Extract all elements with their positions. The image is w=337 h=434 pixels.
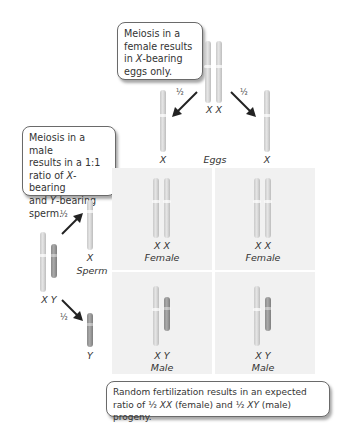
fertilization-callout: Random fertilization results in an expec… — [106, 381, 330, 417]
offspring-genotype: X Y — [243, 350, 283, 361]
offspring-x-chromosome — [153, 286, 159, 346]
egg-prob-left: ½ — [176, 88, 184, 97]
sperm-label-top: X — [82, 252, 98, 263]
female-parent-x-chromosome — [205, 41, 211, 103]
female-parent-x-chromosome — [216, 41, 222, 103]
offspring-x-chromosome — [254, 286, 260, 346]
egg-label-right: X — [259, 154, 275, 165]
callout-text: eggs only. — [124, 66, 196, 79]
offspring-x-chromosome — [164, 178, 170, 238]
callout-text: in X-bearing — [124, 53, 196, 66]
offspring-y-chromosome — [164, 297, 170, 331]
callout-text: female results — [124, 41, 196, 54]
offspring-genotype: X Y — [142, 350, 182, 361]
female-parent-genotype: X X — [200, 104, 228, 115]
offspring-sex: Male — [233, 362, 293, 373]
egg-x-chromosome — [264, 90, 270, 152]
offspring-sex: Male — [132, 362, 192, 373]
offspring-y-chromosome — [265, 297, 271, 331]
offspring-genotype: X X — [243, 240, 283, 251]
egg-prob-right: ½ — [240, 88, 248, 97]
callout-text: Meiosis in a male — [29, 132, 109, 157]
sperm-prob-bottom: ½ — [60, 313, 68, 322]
eggs-label: Eggs — [200, 154, 230, 165]
offspring-sex: Female — [132, 252, 192, 263]
offspring-sex: Female — [233, 252, 293, 263]
sperm-x-chromosome — [87, 200, 93, 250]
male-parent-x-chromosome — [40, 232, 46, 292]
male-meiosis-callout: Meiosis in a male results in a 1:1 ratio… — [22, 126, 116, 196]
offspring-x-chromosome — [153, 178, 159, 238]
offspring-genotype: X X — [142, 240, 182, 251]
callout-text: ratio of ½ XX (female) and ½ XY (male) p… — [113, 399, 323, 424]
callout-text: ratio of X-bearing — [29, 170, 109, 195]
arrow-left-icon — [170, 90, 200, 118]
sperm-label-bottom: Y — [82, 350, 98, 361]
egg-label-left: X — [155, 154, 171, 165]
offspring-x-chromosome — [254, 178, 260, 238]
callout-text: Meiosis in a — [124, 28, 196, 41]
callout-text: and Y-bearing — [29, 195, 109, 208]
female-meiosis-callout: Meiosis in a female results in X-bearing… — [117, 22, 203, 80]
egg-x-chromosome — [160, 90, 166, 152]
sperm-y-chromosome — [87, 313, 93, 347]
callout-text: Random fertilization results in an expec… — [113, 386, 323, 399]
callout-text: results in a 1:1 — [29, 157, 109, 170]
sperm-prob-top: ½ — [60, 210, 68, 219]
male-parent-y-chromosome — [51, 244, 57, 278]
sperm-label: Sperm — [74, 265, 110, 276]
offspring-x-chromosome — [265, 178, 271, 238]
